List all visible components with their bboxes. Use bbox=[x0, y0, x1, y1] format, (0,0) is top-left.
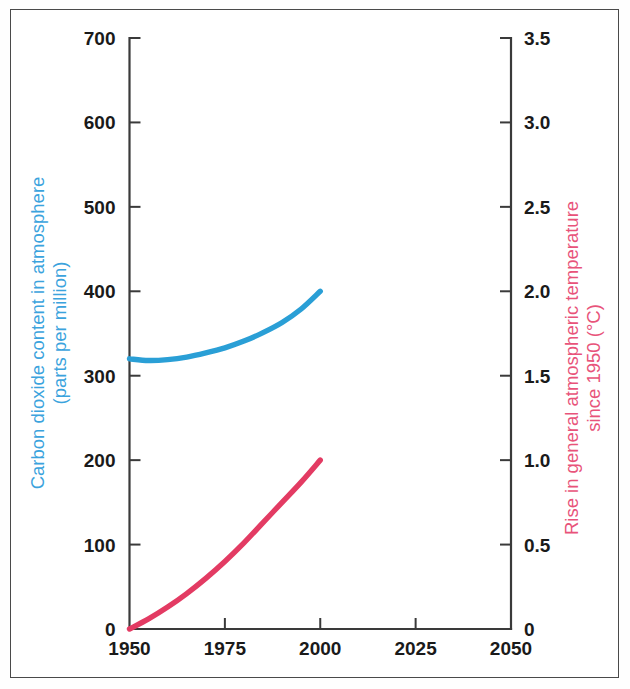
co2-curve bbox=[130, 291, 321, 360]
left-axis-tick-label: 700 bbox=[84, 28, 116, 49]
tick-marks-group bbox=[130, 38, 512, 629]
figure-container: 010020030040050060070000.51.01.52.02.53.… bbox=[0, 0, 630, 689]
left-axis-tick-label: 0 bbox=[105, 619, 116, 640]
temperature-curve bbox=[130, 460, 321, 629]
x-axis-tick-label: 1975 bbox=[204, 638, 247, 659]
right-axis-tick-label: 0.5 bbox=[524, 535, 551, 556]
x-axis-tick-label: 2050 bbox=[490, 638, 532, 659]
left-axis-tick-label: 500 bbox=[84, 197, 116, 218]
right-axis-tick-label: 3.5 bbox=[524, 28, 551, 49]
left-axis-title-line: Carbon dioxide content in atmosphere bbox=[27, 177, 48, 490]
x-axis-tick-label: 2000 bbox=[299, 638, 341, 659]
right-axis-title-line: since 1950 (°C) bbox=[583, 304, 604, 432]
right-axis-tick-label: 3.0 bbox=[524, 112, 550, 133]
left-axis-title: Carbon dioxide content in atmosphere(par… bbox=[27, 177, 70, 490]
right-axis-tick-label: 0 bbox=[524, 619, 535, 640]
left-axis-title-line: (parts per million) bbox=[49, 262, 70, 405]
left-axis-tick-label: 100 bbox=[84, 535, 116, 556]
right-axis-tick-label: 2.0 bbox=[524, 281, 550, 302]
left-axis-tick-label: 400 bbox=[84, 281, 116, 302]
tick-labels-group: 010020030040050060070000.51.01.52.02.53.… bbox=[84, 28, 551, 659]
right-axis-tick-label: 1.5 bbox=[524, 366, 551, 387]
right-axis-tick-label: 1.0 bbox=[524, 450, 550, 471]
right-axis-tick-label: 2.5 bbox=[524, 197, 551, 218]
axis-titles-group: Carbon dioxide content in atmosphere(par… bbox=[27, 177, 604, 535]
right-axis-title-line: Rise in general atmospheric temperature bbox=[561, 201, 582, 535]
x-axis-tick-label: 1950 bbox=[108, 638, 150, 659]
x-axis-tick-label: 2025 bbox=[394, 638, 437, 659]
chart-plot: 010020030040050060070000.51.01.52.02.53.… bbox=[0, 0, 630, 689]
right-axis-title: Rise in general atmospheric temperatures… bbox=[561, 201, 604, 535]
data-series-group bbox=[130, 291, 321, 629]
axes-group bbox=[130, 38, 512, 629]
left-axis-tick-label: 200 bbox=[84, 450, 116, 471]
left-axis-tick-label: 600 bbox=[84, 112, 116, 133]
left-axis-tick-label: 300 bbox=[84, 366, 116, 387]
